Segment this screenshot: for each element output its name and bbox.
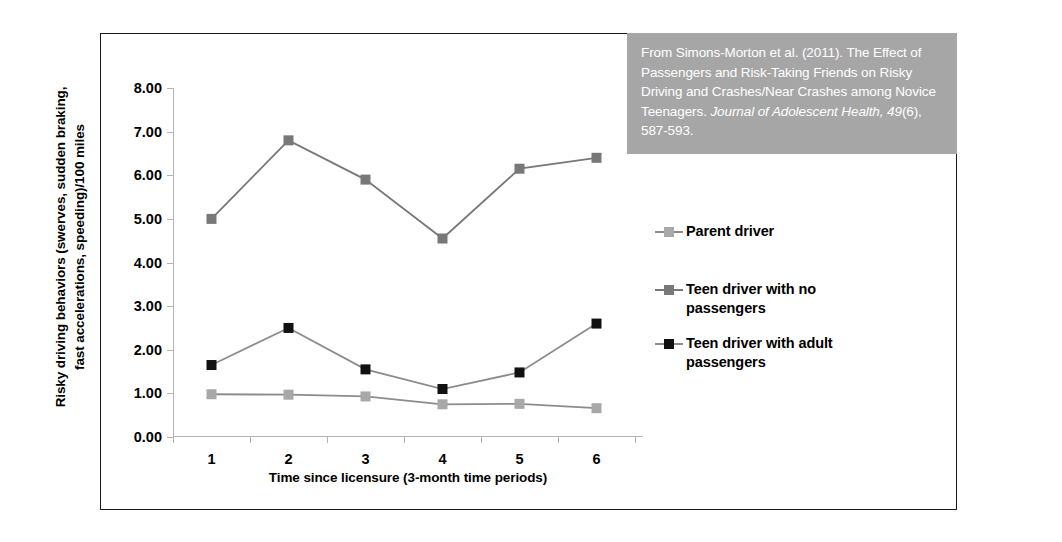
legend-marker: [664, 339, 674, 349]
legend-label: Teen driver with nopassengers: [686, 280, 816, 318]
plot-area: 0.001.002.003.004.005.006.007.008.00 123…: [173, 88, 635, 437]
data-point-marker: [207, 214, 217, 224]
x-tick-mark: [404, 437, 405, 443]
y-tick-label: 4.00: [134, 255, 162, 271]
data-point-marker: [592, 319, 602, 329]
x-tick-mark: [481, 437, 482, 443]
legend-label-line-1: Teen driver with no: [686, 280, 816, 299]
legend-swatch-icon: [655, 335, 683, 353]
legend-entry[interactable]: Parent driver: [655, 222, 774, 241]
legend-marker: [664, 227, 674, 237]
citation-box: From Simons-Morton et al. (2011). The Ef…: [627, 33, 957, 154]
legend-label-line-2: passengers: [686, 353, 833, 372]
legend-entry[interactable]: Teen driver with nopassengers: [655, 280, 816, 318]
y-axis-title-line-1: Risky driving behaviors (swerves, sudden…: [51, 37, 70, 457]
data-point-marker: [515, 399, 525, 409]
x-tick-label: 6: [592, 451, 600, 467]
series-line: [212, 394, 597, 408]
x-tick-label: 1: [207, 451, 215, 467]
x-tick-label: 4: [438, 451, 446, 467]
data-point-marker: [592, 403, 602, 413]
legend-entry[interactable]: Teen driver with adultpassengers: [655, 334, 833, 372]
legend-label: Parent driver: [686, 222, 774, 241]
series-1: [207, 135, 602, 243]
data-point-marker: [361, 175, 371, 185]
x-tick-label: 3: [361, 451, 369, 467]
series-0: [207, 389, 602, 413]
data-point-marker: [361, 391, 371, 401]
data-point-marker: [284, 323, 294, 333]
data-point-marker: [515, 367, 525, 377]
data-point-marker: [438, 234, 448, 244]
data-point-marker: [284, 135, 294, 145]
legend-swatch-icon: [655, 223, 683, 241]
x-tick-mark: [173, 437, 174, 443]
data-point-marker: [361, 364, 371, 374]
y-axis-title-line-2: fast accelerations, speeding)/100 miles: [70, 37, 89, 457]
data-point-marker: [207, 360, 217, 370]
y-tick-label: 0.00: [134, 429, 162, 445]
y-tick-label: 5.00: [134, 211, 162, 227]
legend-label: Teen driver with adultpassengers: [686, 334, 833, 372]
series-2: [207, 319, 602, 394]
data-point-marker: [438, 399, 448, 409]
legend-label-line-2: passengers: [686, 299, 816, 318]
x-tick-mark: [327, 437, 328, 443]
series-line: [212, 324, 597, 389]
x-axis-title: Time since licensure (3-month time perio…: [173, 470, 643, 485]
legend-marker: [664, 285, 674, 295]
legend-swatch-icon: [655, 281, 683, 299]
data-point-marker: [284, 390, 294, 400]
series-line: [212, 140, 597, 238]
y-tick-label: 3.00: [134, 298, 162, 314]
citation-journal-italic: Journal of Adolescent Health, 49: [710, 104, 901, 119]
x-tick-mark: [558, 437, 559, 443]
data-point-marker: [515, 164, 525, 174]
figure-container: Risky driving behaviors (swerves, sudden…: [0, 0, 1062, 542]
data-point-marker: [438, 384, 448, 394]
data-point-marker: [592, 153, 602, 163]
x-tick-mark: [250, 437, 251, 443]
legend-label-line-1: Teen driver with adult: [686, 334, 833, 353]
y-tick-label: 1.00: [134, 385, 162, 401]
y-tick-label: 2.00: [134, 342, 162, 358]
legend-label-line-1: Parent driver: [686, 222, 774, 241]
y-tick-label: 7.00: [134, 124, 162, 140]
y-axis-title: Risky driving behaviors (swerves, sudden…: [51, 37, 89, 457]
series-lines: [173, 88, 635, 437]
x-tick-label: 2: [284, 451, 292, 467]
x-tick-label: 5: [515, 451, 523, 467]
y-tick-label: 6.00: [134, 167, 162, 183]
data-point-marker: [207, 389, 217, 399]
x-tick-mark: [635, 437, 636, 443]
y-tick-label: 8.00: [134, 80, 162, 96]
